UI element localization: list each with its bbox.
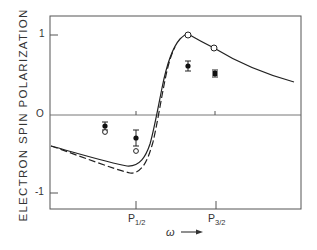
x-axis-label: ω (166, 226, 175, 238)
open-point-peak (185, 32, 191, 38)
ytick-label-0: O (36, 108, 44, 119)
ytick-label-m1: -1 (35, 186, 44, 197)
y-axis-label: ELECTRON SPIN POLARIZATION (17, 8, 29, 221)
ytick-label-1: 1 (39, 28, 45, 39)
data-point-a (102, 122, 108, 134)
open-point-p32 (211, 45, 217, 51)
xtick-label-p32: P3/2 (208, 212, 225, 227)
chart-plot (0, 0, 317, 250)
xtick-label-p12: P1/2 (128, 212, 145, 227)
data-point-b (133, 130, 139, 153)
x-arrow-head-icon (196, 230, 203, 235)
data-point-d (212, 70, 218, 77)
data-point-c (185, 61, 191, 71)
theory-curve-dashed (51, 47, 175, 173)
